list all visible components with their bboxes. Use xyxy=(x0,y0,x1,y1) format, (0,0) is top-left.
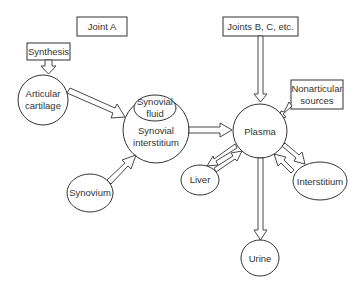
synovial-fluid-label-2: fluid xyxy=(146,108,163,119)
liver-node: Liver xyxy=(181,165,219,195)
arrow-cartilage-to-synovial xyxy=(67,88,125,118)
synovial-fluid-label-1: Synovial xyxy=(137,96,173,107)
articular-cartilage-label-2: cartilage xyxy=(25,100,61,111)
nonarticular-label-2: sources xyxy=(300,95,334,106)
synovium-label: Synovium xyxy=(69,187,111,198)
synovium-node: Synovium xyxy=(67,174,113,212)
liver-label: Liver xyxy=(190,174,211,185)
synovial-interstitium-label-2: interstitium xyxy=(133,137,179,148)
nonarticular-label-1: Nonarticular xyxy=(291,83,342,94)
synovial-interstitium-label-1: Synovial xyxy=(138,125,174,136)
synovial-interstitium-node: Synovial fluid Synovial interstitium xyxy=(123,95,189,163)
arrow-liver-to-plasma xyxy=(214,151,242,172)
joints-bc-label: Joints B, C, etc. xyxy=(227,21,294,32)
flow-diagram: Joint A Synthesis Articular cartilage Sy… xyxy=(0,0,361,285)
interstitium-node: Interstitium xyxy=(293,162,347,200)
articular-cartilage-label-1: Articular xyxy=(26,88,61,99)
plasma-label: Plasma xyxy=(244,126,276,137)
arrow-plasma-to-urine xyxy=(254,158,267,240)
joint-a-label: Joint A xyxy=(88,21,117,32)
arrow-synthesis-to-cartilage xyxy=(41,60,56,74)
synthesis-box: Synthesis xyxy=(27,43,70,60)
plasma-node: Plasma xyxy=(233,104,287,158)
nonarticular-sources-box: Nonarticular sources xyxy=(291,80,343,109)
arrow-interstitium-to-plasma xyxy=(274,154,294,173)
arrow-joints-to-plasma xyxy=(254,36,267,102)
urine-label: Urine xyxy=(249,253,272,264)
urine-node: Urine xyxy=(241,240,279,276)
arrow-synovium-to-synovial xyxy=(107,155,136,184)
joints-bc-box: Joints B, C, etc. xyxy=(223,17,298,36)
synthesis-label: Synthesis xyxy=(28,46,69,57)
articular-cartilage-node: Articular cartilage xyxy=(18,75,68,125)
joint-a-box: Joint A xyxy=(77,17,127,36)
arrow-synovial-to-plasma xyxy=(189,123,232,137)
interstitium-label: Interstitium xyxy=(297,176,344,187)
